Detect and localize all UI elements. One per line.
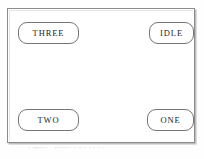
button-three-label: THREE: [33, 29, 65, 38]
button-one-label: ONE: [160, 116, 180, 125]
button-two-label: TWO: [37, 116, 59, 125]
button-three[interactable]: THREE: [18, 22, 79, 44]
button-idle[interactable]: IDLE: [149, 22, 194, 44]
scan-artifact-top: [0, 0, 204, 7]
figure-caption-text: Figure ‑ panel l ti l t i t f: [28, 147, 178, 150]
touch-panel-frame: THREE IDLE TWO ONE: [7, 8, 195, 143]
panel-display-area: [20, 49, 182, 105]
button-one[interactable]: ONE: [147, 109, 194, 131]
button-two[interactable]: TWO: [18, 109, 79, 131]
scanned-page-background: THREE IDLE TWO ONE Figure ‑ panel l ti l…: [0, 0, 204, 159]
button-idle-label: IDLE: [160, 29, 183, 38]
figure-caption: Figure ‑ panel l ti l t i t f: [28, 147, 178, 156]
